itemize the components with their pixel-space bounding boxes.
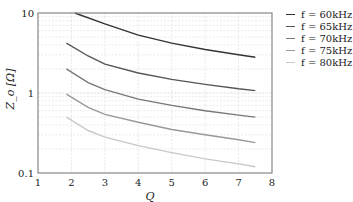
legend-swatch-icon: [286, 38, 295, 39]
y-tick-label: 1: [28, 88, 34, 99]
x-tick-label: 7: [235, 177, 241, 188]
legend-label: f = 65kHz: [301, 21, 352, 32]
x-tick-label: 5: [169, 177, 175, 188]
legend-swatch-icon: [286, 50, 295, 51]
legend-swatch-icon: [286, 14, 295, 15]
data-series: [66, 13, 255, 167]
x-tick-label: 2: [68, 177, 74, 188]
y-tick-label: 0.1: [18, 168, 34, 179]
legend-item: f = 70kHz: [286, 32, 352, 44]
x-tick-label: 4: [135, 177, 141, 188]
legend-label: f = 80kHz: [301, 57, 352, 68]
series-line-0: [75, 13, 256, 57]
x-tick-label: 1: [35, 177, 41, 188]
x-axis-ticks: 12345678: [35, 177, 275, 188]
legend: f = 60kHzf = 65kHzf = 70kHzf = 75kHzf = …: [286, 8, 352, 69]
x-tick-label: 8: [269, 177, 275, 188]
y-axis-ticks: 0.1110: [18, 8, 34, 179]
series-line-1: [66, 43, 255, 91]
x-axis-label: Q: [145, 190, 154, 202]
x-tick-label: 3: [102, 177, 108, 188]
legend-item: f = 60kHz: [286, 8, 352, 20]
legend-swatch-icon: [286, 26, 295, 27]
x-tick-label: 6: [202, 177, 208, 188]
y-axis-label: Z_o [Ω]: [4, 68, 17, 111]
series-line-3: [66, 94, 255, 143]
legend-label: f = 75kHz: [301, 45, 352, 56]
y-tick-label: 10: [21, 8, 34, 19]
legend-item: f = 75kHz: [286, 45, 352, 57]
legend-swatch-icon: [286, 62, 295, 63]
legend-label: f = 60kHz: [301, 9, 352, 20]
legend-item: f = 80kHz: [286, 57, 352, 69]
legend-item: f = 65kHz: [286, 20, 352, 32]
legend-label: f = 70kHz: [301, 33, 352, 44]
